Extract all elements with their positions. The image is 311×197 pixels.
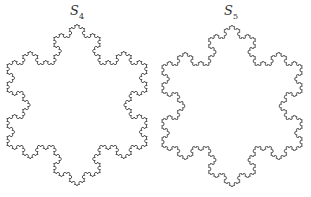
koch-snowflake-s5 [162, 25, 302, 187]
snowflake-canvas [0, 0, 311, 197]
koch-snowflake-s4 [7, 24, 147, 186]
